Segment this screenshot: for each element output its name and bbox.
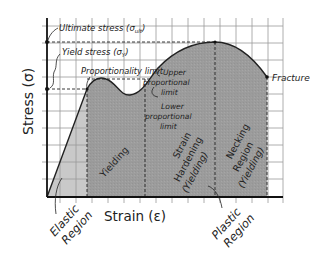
- yield-stress-marker: [45, 87, 49, 91]
- stress-strain-diagram: Ultimate stress (σult) Yield stress (σY)…: [0, 0, 332, 267]
- ultimate-stress-marker: [45, 40, 49, 44]
- lower-proportional-limit-label-3: limit: [160, 122, 178, 131]
- lower-proportional-limit-label-2: proportional: [144, 112, 192, 121]
- upper-proportional-limit-label-2: proportional: [142, 78, 190, 87]
- plastic-region-label: Plastic Region: [209, 202, 258, 252]
- upper-proportional-limit-label-3: limit: [161, 88, 179, 97]
- fracture-label: Fracture: [272, 73, 310, 83]
- proportionality-limit-label: Proportionality limit: [81, 66, 164, 76]
- lower-proportional-limit-label-1: Lower: [161, 102, 185, 111]
- fracture-point: [265, 75, 269, 79]
- y-axis-title: Stress (σ): [20, 68, 36, 135]
- ultimate-point: [213, 40, 216, 43]
- elastic-region-label: Elastic Region: [47, 199, 96, 249]
- upper-proportional-limit-label-1: Upper: [163, 68, 187, 77]
- x-axis-title: Strain (ε): [104, 208, 166, 224]
- yield-stress-label: Yield stress (σY): [62, 47, 129, 58]
- ultimate-stress-label: Ultimate stress (σult): [59, 23, 145, 34]
